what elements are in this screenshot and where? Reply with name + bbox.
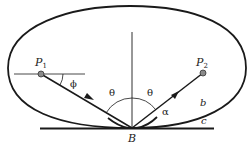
point-p2 (200, 70, 206, 76)
incident-arrow-icon (84, 93, 94, 100)
theta-right-arc (132, 98, 156, 110)
label-line-c: c (201, 115, 207, 126)
label-p1: P1 (34, 56, 47, 70)
reflection-diagram: P1 P2 ϕ θ θ α B b c (0, 0, 250, 147)
label-alpha: α (162, 106, 169, 117)
label-theta-left: θ (109, 87, 115, 98)
label-point-b: B (127, 132, 136, 145)
label-theta-right: θ (147, 87, 153, 98)
label-phi: ϕ (70, 78, 77, 89)
theta-left-arc (106, 98, 132, 113)
label-curve-b: b (200, 97, 206, 108)
point-p1 (38, 71, 44, 77)
phi-arc (60, 74, 63, 85)
label-p2: P2 (195, 56, 208, 70)
